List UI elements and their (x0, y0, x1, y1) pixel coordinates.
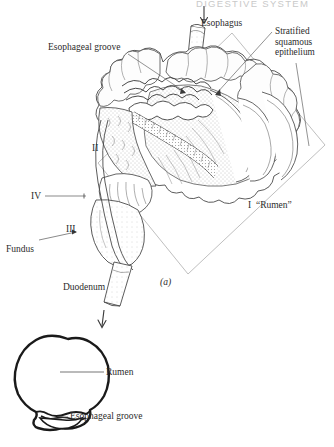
leader-line-rumen-1 (208, 205, 246, 215)
abomasum-compartment-iii (91, 200, 145, 267)
label-fundus: Fundus (6, 244, 34, 254)
leader-line-iv (45, 194, 86, 199)
page-header: DIGESTIVE SYSTEM (196, 0, 309, 9)
figure-label-a: (a) (160, 277, 171, 287)
digestive-system-figure (0, 0, 334, 447)
label-esophageal-groove: Esophageal groove (48, 42, 121, 52)
label-compartment-i-rumen: I “Rumen” (248, 200, 292, 210)
label-compartment-iii: III (66, 224, 76, 234)
leader-line-stratified-2 (296, 63, 309, 146)
duodenum-tube (104, 262, 132, 306)
label-duodenum: Duodenum (63, 282, 105, 292)
label-rumen-cross-section: Rumen (106, 367, 133, 377)
label-compartment-ii: II (92, 143, 98, 153)
label-stratified-squamous-epithelium: Stratified squamous epithelium (275, 26, 315, 58)
label-esophageal-groove-cross-section: Esophageal groove (70, 411, 143, 421)
duodenum-arrow (98, 310, 106, 328)
label-esophagus: Esophagus (201, 18, 242, 28)
label-compartment-iv: IV (31, 191, 41, 201)
